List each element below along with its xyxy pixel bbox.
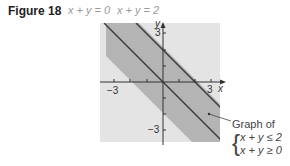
y-axis-label: y <box>155 18 160 29</box>
x-tick-label-neg3: −3 <box>107 85 118 96</box>
y-tick-label-neg3: −3 <box>148 124 159 135</box>
x-tick-label-3: 3 <box>207 84 213 95</box>
x-axis-label: x <box>218 83 223 94</box>
brace-icon: { <box>232 131 240 155</box>
inequality-1: x + y ≤ 2 <box>240 131 282 143</box>
inequality-2: x + y ≥ 0 <box>240 144 282 156</box>
